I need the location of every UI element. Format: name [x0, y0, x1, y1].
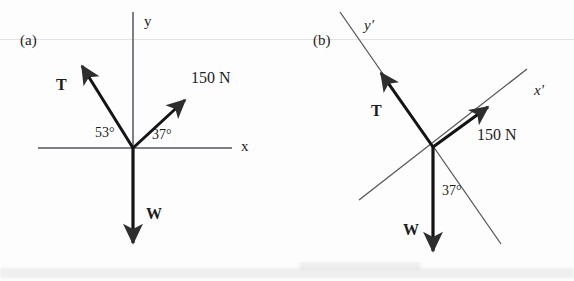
panel-b-tag: (b) — [313, 33, 331, 48]
panel-b-vector-150N-label: 150 N — [477, 127, 517, 143]
panel-b-angle-37: 37° — [442, 184, 462, 198]
panel-a-axis-y-label: y — [144, 14, 152, 29]
panel-b-vectors — [381, 73, 488, 251]
panel-a-vector-150N-label: 150 N — [191, 70, 231, 86]
panel-a-angle-53: 53° — [95, 126, 115, 140]
panel-b-axis-x-prime-label: x' — [534, 83, 544, 98]
vector-T-arrow — [381, 73, 433, 147]
panel-b-axis-y-prime-label: y' — [364, 18, 374, 33]
panel-b-vector-W-label: W — [403, 222, 419, 238]
panel-a-angle-37: 37° — [152, 128, 172, 142]
panel-a-axis-x-label: x — [241, 139, 249, 154]
panel-a-vector-T-label: T — [56, 77, 67, 93]
panel-a-axes — [38, 12, 232, 178]
panel-a-vector-W-label: W — [146, 206, 162, 222]
panel-a-tag: (a) — [20, 33, 37, 48]
panel-b-vector-T-label: T — [371, 103, 382, 119]
figure-canvas: (a) y x T 150 N W 53° 37° (b) y' x' T 15… — [0, 0, 574, 281]
